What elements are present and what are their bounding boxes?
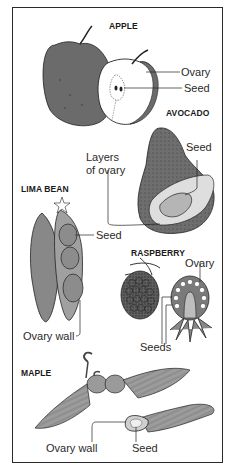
lima-bean-seed-label: Seed: [96, 230, 122, 241]
raspberry-seeds-label: Seeds: [140, 342, 171, 353]
avocado-layers-label-line2: of ovary: [86, 165, 125, 176]
lima-bean-ovary-wall-label: Ovary wall: [23, 331, 74, 342]
fruit-diagram: APPLE Ovary Seed AVOCADO Seed Layers of …: [0, 0, 230, 470]
raspberry-title: RASPBERRY: [131, 249, 185, 258]
apple-title: APPLE: [109, 22, 138, 31]
maple-title: MAPLE: [21, 369, 51, 378]
avocado-title: AVOCADO: [166, 109, 210, 118]
lima-bean-illustration: [30, 197, 94, 336]
apple-seed-label: Seed: [184, 83, 210, 94]
maple-ovary-wall-label: Ovary wall: [46, 443, 97, 454]
maple-illustration: [35, 353, 214, 442]
raspberry-illustration: [121, 258, 212, 344]
lima-bean-title: LIMA BEAN: [21, 185, 69, 194]
maple-seed-label: Seed: [132, 443, 158, 454]
avocado-layers-label-line1: Layers: [86, 152, 119, 163]
apple-ovary-label: Ovary: [181, 67, 210, 78]
avocado-seed-label: Seed: [186, 142, 212, 153]
apple-illustration: [43, 26, 182, 126]
raspberry-ovary-label: Ovary: [185, 258, 214, 269]
